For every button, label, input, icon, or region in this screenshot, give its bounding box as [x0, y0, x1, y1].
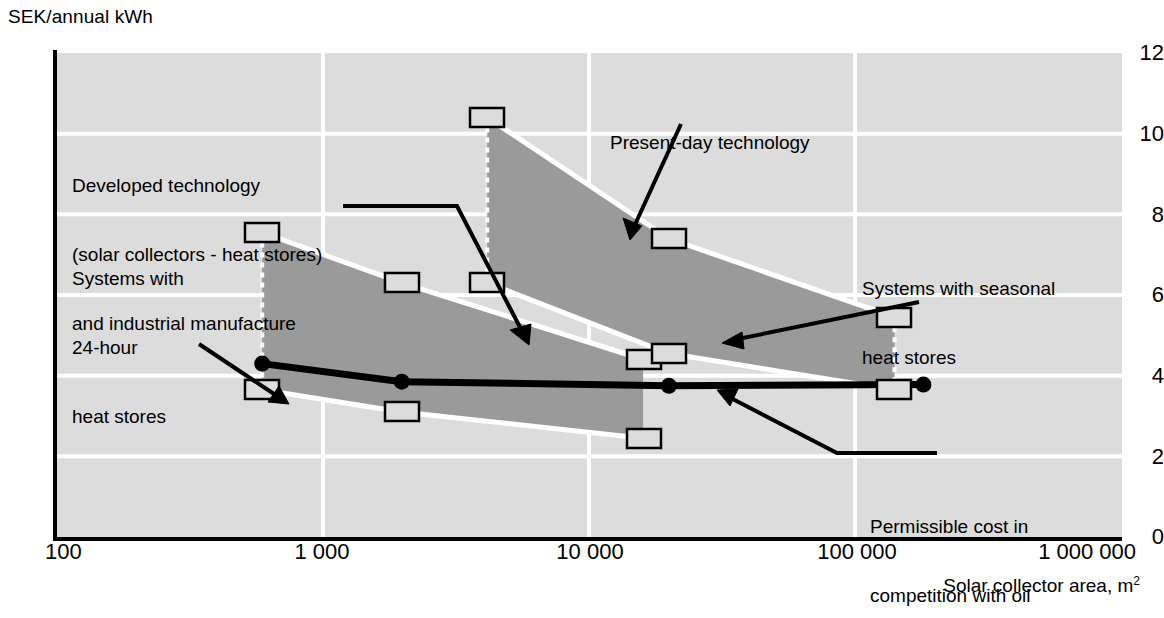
- y-tick-2: 2: [1118, 446, 1164, 468]
- annotation-developed-line1: Developed technology: [72, 174, 322, 197]
- x-tick-10000: 10 000: [556, 541, 623, 563]
- annotation-seasonal-line2: heat stores: [862, 346, 1055, 369]
- marker-4300-10.40: [470, 108, 504, 127]
- marker-2000-6.30: [385, 273, 419, 292]
- arrowhead-permissible: [717, 389, 738, 406]
- annotation-seasonal-heat-stores: Systems with seasonal heat stores: [862, 231, 1055, 415]
- x-tick-1000000: 1 000 000: [1038, 541, 1136, 563]
- marker-20000-7.40: [652, 229, 686, 248]
- annotation-24hour-line2: 24-hour: [72, 336, 184, 359]
- y-tick-6: 6: [1118, 284, 1164, 306]
- x-tick-1000: 1 000: [294, 541, 349, 563]
- annotation-24hour-line3: heat stores: [72, 405, 184, 428]
- chart-figure: SEK/annual kWh 12 10 8 6 4 2 0: [0, 0, 1164, 618]
- annotation-permissible-line2: competition with oil: [870, 584, 1031, 607]
- data-point-marker: [661, 378, 677, 394]
- annotation-present-day: Present-day technology: [610, 85, 810, 200]
- y-tick-8: 8: [1118, 204, 1164, 226]
- data-point-marker: [394, 374, 410, 390]
- y-tick-4: 4: [1118, 365, 1164, 387]
- annotation-24hour-heat-stores: Systems with 24-hour heat stores: [72, 221, 184, 474]
- y-axis-unit-caption: SEK/annual kWh: [8, 6, 153, 28]
- y-tick-12: 12: [1118, 42, 1164, 64]
- y-axis-line: [53, 50, 57, 540]
- annotation-permissible-line1: Permissible cost in: [870, 515, 1031, 538]
- marker-16000-2.45: [627, 429, 661, 448]
- x-axis-title-superscript: 2: [1133, 574, 1140, 588]
- annotation-24hour-line1: Systems with: [72, 267, 184, 290]
- marker-20000-4.55: [652, 344, 686, 363]
- y-tick-10: 10: [1118, 123, 1164, 145]
- annotation-seasonal-line1: Systems with seasonal: [862, 277, 1055, 300]
- x-tick-100: 100: [45, 541, 82, 563]
- marker-2000-3.10: [385, 402, 419, 421]
- annotation-permissible-cost: Permissible cost in competition with oil: [870, 469, 1031, 618]
- annotation-present-day-line1: Present-day technology: [610, 131, 810, 154]
